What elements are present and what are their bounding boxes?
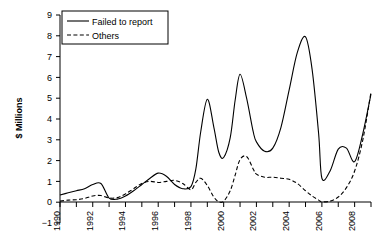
series-failed-to-report bbox=[60, 36, 371, 199]
line-chart: 9876543210−1 199019921994199619982000200… bbox=[0, 0, 385, 252]
y-tick-label: 8 bbox=[47, 31, 52, 41]
y-tick-label: 3 bbox=[47, 135, 52, 145]
x-tick-label: 2006 bbox=[314, 211, 324, 231]
x-tick-label: 2008 bbox=[347, 211, 357, 231]
y-tick-label: −1 bbox=[42, 218, 52, 228]
x-tick-label: 1990 bbox=[52, 211, 62, 231]
legend-label-failed-to-report: Failed to report bbox=[92, 17, 153, 27]
y-tick-label: 0 bbox=[47, 197, 52, 207]
data-series-group bbox=[60, 36, 371, 202]
x-axis: 1990199219941996199820002002200420062008 bbox=[52, 202, 371, 231]
y-tick-label: 4 bbox=[47, 114, 52, 124]
x-tick-label: 2002 bbox=[248, 211, 258, 231]
y-tick-label: 7 bbox=[47, 52, 52, 62]
y-axis-ticks bbox=[56, 15, 60, 223]
y-tick-label: 9 bbox=[47, 10, 52, 20]
y-tick-label: 6 bbox=[47, 73, 52, 83]
chart-container: 9876543210−1 199019921994199619982000200… bbox=[0, 0, 385, 252]
x-tick-label: 2004 bbox=[281, 211, 291, 231]
x-tick-label: 1996 bbox=[150, 211, 160, 231]
y-axis: 9876543210−1 bbox=[42, 10, 60, 228]
x-axis-ticks bbox=[60, 202, 371, 207]
x-axis-tick-labels: 1990199219941996199820002002200420062008 bbox=[52, 211, 357, 231]
legend: Failed to report Others bbox=[62, 11, 168, 44]
x-tick-label: 1992 bbox=[85, 211, 95, 231]
legend-label-others: Others bbox=[92, 31, 120, 41]
y-tick-label: 5 bbox=[47, 93, 52, 103]
y-axis-title: $ Millions bbox=[14, 97, 24, 138]
x-tick-label: 1994 bbox=[117, 211, 127, 231]
series-others bbox=[60, 92, 371, 202]
x-tick-label: 1998 bbox=[183, 211, 193, 231]
y-axis-tick-labels: 9876543210−1 bbox=[42, 10, 52, 228]
y-tick-label: 1 bbox=[47, 177, 52, 187]
y-tick-label: 2 bbox=[47, 156, 52, 166]
x-tick-label: 2000 bbox=[216, 211, 226, 231]
